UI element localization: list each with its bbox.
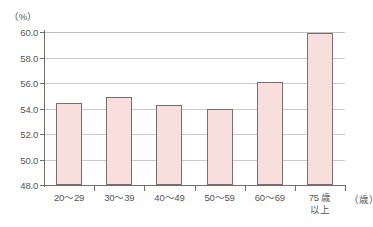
y-axis-tick-label: 48.0 <box>4 180 38 191</box>
bar <box>307 33 333 185</box>
y-axis-tick-label: 54.0 <box>4 103 38 114</box>
x-axis-tick <box>295 186 296 191</box>
x-axis-tick <box>94 186 95 191</box>
x-axis-tick <box>144 186 145 191</box>
x-axis-tick-label: 60〜69 <box>255 192 285 204</box>
y-axis-tick-label: 56.0 <box>4 78 38 89</box>
x-axis-tick <box>345 186 346 191</box>
x-axis-tick-label: 75 歳 以上 <box>309 192 331 216</box>
bar <box>257 82 283 185</box>
x-axis-tick-label: 30〜39 <box>104 192 134 204</box>
bar <box>56 103 82 185</box>
bar <box>207 109 233 186</box>
y-axis-labels: 48.050.052.054.056.058.060.0 <box>0 0 38 227</box>
bar-series <box>44 32 345 185</box>
bar <box>156 105 182 185</box>
x-axis-tick <box>245 186 246 191</box>
x-axis-tick-label: 50〜59 <box>205 192 235 204</box>
bar-slot <box>295 32 345 185</box>
x-axis-tick-label: 20〜29 <box>54 192 84 204</box>
y-axis-tick-label: 60.0 <box>4 27 38 38</box>
bar-slot <box>44 32 94 185</box>
y-axis-tick-label: 52.0 <box>4 129 38 140</box>
x-axis-tick-label: 40〜49 <box>154 192 184 204</box>
x-axis-unit-label: （歳） <box>349 192 373 206</box>
bar-chart: （%） 48.050.052.054.056.058.060.0 20〜2930… <box>0 0 373 227</box>
y-axis-tick-label: 58.0 <box>4 52 38 63</box>
bar-slot <box>195 32 245 185</box>
x-axis-tick <box>195 186 196 191</box>
bar-slot <box>94 32 144 185</box>
bar-slot <box>245 32 295 185</box>
bar <box>106 97 132 185</box>
bar-slot <box>144 32 194 185</box>
y-axis-tick-label: 50.0 <box>4 154 38 165</box>
